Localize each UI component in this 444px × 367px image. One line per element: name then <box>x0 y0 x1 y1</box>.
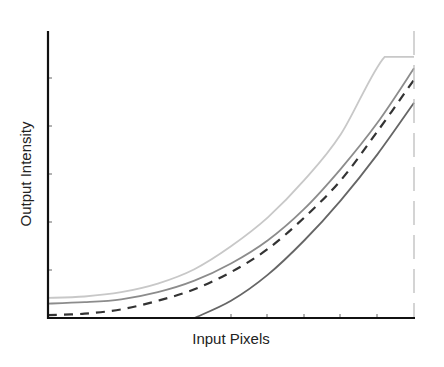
chart-canvas <box>0 0 444 367</box>
series-curve-3-dashed <box>48 80 414 315</box>
x-axis-label: Input Pixels <box>192 330 270 347</box>
series-curve-4-dark <box>194 103 414 318</box>
plot-lines <box>48 57 414 318</box>
series-curve-2-medium <box>48 68 414 303</box>
y-axis-label: Output Intensity <box>17 121 34 226</box>
